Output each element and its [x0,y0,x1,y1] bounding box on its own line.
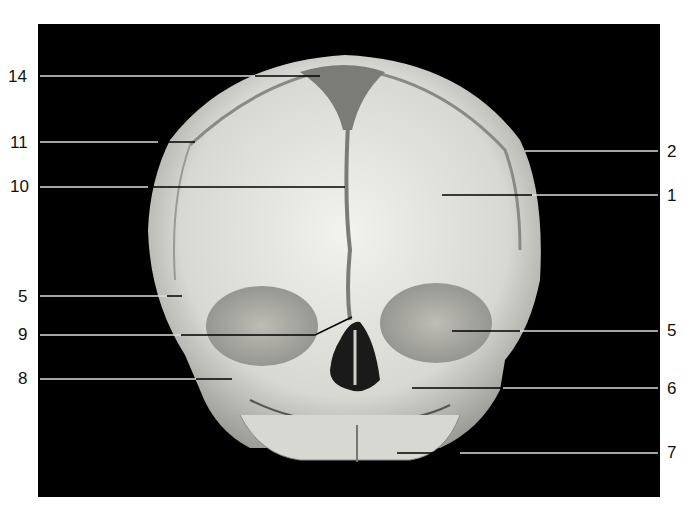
label-6: 6 [667,380,676,397]
label-5-left: 5 [18,288,27,305]
label-11: 11 [10,134,28,151]
skull-anatomy-figure: 14 11 10 5 9 8 2 1 5 6 7 [0,0,695,515]
label-7: 7 [667,444,676,461]
label-1: 1 [667,187,676,204]
label-9: 9 [18,326,27,343]
skull-illustration [0,0,695,515]
label-5-right: 5 [667,322,676,339]
left-orbit [380,283,492,363]
right-orbit [206,286,318,366]
label-8: 8 [18,370,27,387]
label-10: 10 [10,178,29,195]
label-2: 2 [667,143,676,160]
label-14: 14 [8,68,27,85]
